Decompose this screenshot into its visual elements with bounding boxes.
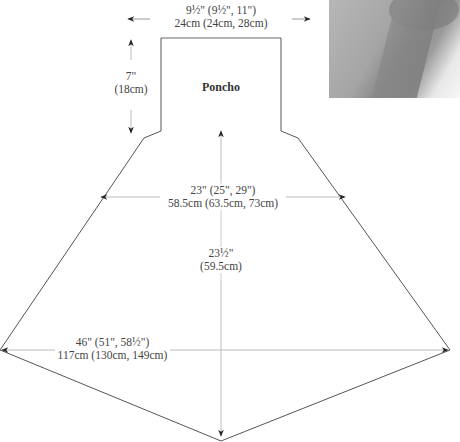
schematic-outline — [0, 0, 460, 442]
lower-width-metric: 117cm (130cm, 149cm) — [55, 349, 170, 362]
upper-width-metric: 58.5cm (63.5cm, 73cm) — [160, 197, 286, 210]
neck-height-label: 7" (18cm) — [106, 70, 156, 96]
upper-width-imperial: 23" (25", 29") — [160, 184, 286, 197]
neck-width-label: 9½" (9½", 11") 24cm (24cm, 28cm) — [0, 4, 442, 30]
length-label: 23½" (59.5cm) — [196, 247, 246, 273]
upper-width-label: 23" (25", 29") 58.5cm (63.5cm, 73cm) — [160, 184, 286, 210]
lower-width-imperial: 46" (51", 58½") — [55, 336, 170, 349]
neck-width-imperial: 9½" (9½", 11") — [0, 4, 442, 17]
length-imperial: 23½" — [196, 247, 246, 260]
neck-height-imperial: 7" — [106, 70, 156, 83]
length-metric: (59.5cm) — [196, 260, 246, 273]
neck-width-metric: 24cm (24cm, 28cm) — [0, 17, 442, 30]
neck-height-metric: (18cm) — [106, 83, 156, 96]
lower-width-label: 46" (51", 58½") 117cm (130cm, 149cm) — [55, 336, 170, 362]
piece-title: Poncho — [196, 81, 246, 94]
